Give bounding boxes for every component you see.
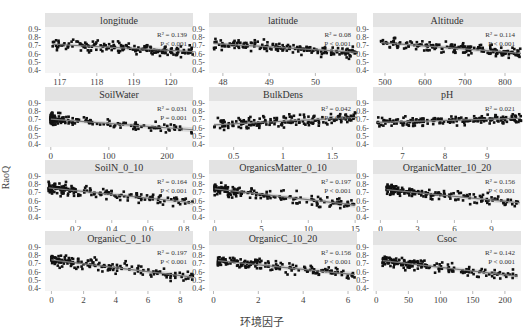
panel-title: OrganicC_0_10 bbox=[87, 233, 151, 244]
x-tick-label: 0 bbox=[374, 295, 379, 305]
y-tick-label: 0.7- bbox=[28, 41, 41, 50]
y-tick-label: 0.5- bbox=[28, 205, 41, 214]
y-tick-label: 0.4- bbox=[28, 66, 41, 75]
y-tick-label: 0.6- bbox=[28, 50, 41, 59]
y-tick-label: 0.4- bbox=[356, 284, 369, 293]
y-axis-label-text: RaoQ bbox=[0, 166, 11, 189]
p-value-label: P < 0.001 bbox=[160, 187, 187, 195]
y-tick-label: 0.5- bbox=[28, 58, 41, 67]
y-axis-label: RaoQ bbox=[2, 160, 22, 200]
p-value-label: P < 0.001 bbox=[324, 258, 351, 266]
y-tick-label: 0.9- bbox=[192, 99, 205, 108]
p-value-label: P < 0.001 bbox=[488, 187, 515, 195]
y-tick-label: 0.5- bbox=[28, 132, 41, 141]
panel-title: BulkDens bbox=[263, 89, 303, 100]
y-tick-label: 0.6- bbox=[192, 124, 205, 133]
x-tick-label: 1.5 bbox=[327, 151, 339, 161]
x-tick-label: 0 bbox=[49, 151, 54, 161]
x-tick-label: 117 bbox=[53, 77, 67, 87]
x-tick-label: 2 bbox=[256, 295, 261, 305]
y-tick-label: 0.4- bbox=[356, 66, 369, 75]
p-value-label: P < 0.001 bbox=[160, 258, 187, 266]
y-tick-label: 0.6- bbox=[28, 197, 41, 206]
y-tick-label: 0.6- bbox=[356, 124, 369, 133]
x-tick-label: 7 bbox=[400, 151, 405, 161]
x-axis-label: 环境因子 bbox=[0, 313, 524, 329]
y-tick-label: 0.6- bbox=[356, 50, 369, 59]
p-value-label: P < 0.001 bbox=[324, 40, 351, 48]
x-tick-label: 100 bbox=[434, 295, 448, 305]
y-tick-label: 0.4- bbox=[356, 140, 369, 149]
y-tick-label: 0.7- bbox=[28, 188, 41, 197]
y-tick-label: 0.6- bbox=[28, 124, 41, 133]
panel-title: SoilWater bbox=[99, 89, 139, 100]
x-tick-label: 2 bbox=[81, 295, 86, 305]
y-tick-label: 0.7- bbox=[356, 115, 369, 124]
y-tick-label: 0.5- bbox=[192, 132, 205, 141]
panel-title: OrganicC_10_20 bbox=[249, 233, 318, 244]
panel-title: OrganicsMatter_0_10 bbox=[239, 162, 327, 173]
x-tick-label: 119 bbox=[127, 77, 141, 87]
panel-title: SoilN_0_10 bbox=[95, 162, 143, 173]
y-tick-label: 0.4- bbox=[192, 66, 205, 75]
x-tick-label: 200 bbox=[160, 151, 174, 161]
y-tick-label: 0.5- bbox=[192, 58, 205, 67]
y-tick-label: 0.7- bbox=[192, 188, 205, 197]
x-tick-label: 50 bbox=[404, 295, 414, 305]
x-tick-label: 150 bbox=[466, 295, 480, 305]
panel-longitude: longitude0.4-0.5-0.6-0.7-0.8-0.9-1171181… bbox=[28, 13, 194, 87]
panel-ph: pH0.4-0.5-0.6-0.7-0.8-0.9-789R² = 0.021 bbox=[356, 87, 522, 161]
y-tick-label: 0.8- bbox=[192, 251, 205, 260]
y-tick-label: 0.8- bbox=[28, 33, 41, 42]
y-tick-label: 0.9- bbox=[192, 25, 205, 34]
y-tick-label: 0.9- bbox=[356, 25, 369, 34]
y-tick-label: 0.6- bbox=[192, 197, 205, 206]
x-tick-label: 8 bbox=[443, 151, 448, 161]
y-tick-label: 0.7- bbox=[192, 41, 205, 50]
y-tick-label: 0.6- bbox=[192, 50, 205, 59]
x-tick-label: 500 bbox=[378, 77, 392, 87]
r-squared-label: R² = 0.197 bbox=[157, 249, 187, 257]
r-squared-label: R² = 0.156 bbox=[485, 178, 515, 186]
x-tick-label: 0 bbox=[211, 295, 216, 305]
r-squared-label: R² = 0.021 bbox=[485, 105, 515, 113]
y-tick-label: 0.4- bbox=[28, 140, 41, 149]
y-tick-label: 0.5- bbox=[356, 58, 369, 67]
panel-title: longitude bbox=[100, 15, 138, 26]
y-tick-label: 0.5- bbox=[192, 205, 205, 214]
y-tick-label: 0.5- bbox=[28, 276, 41, 285]
x-tick-label: 118 bbox=[90, 77, 104, 87]
y-tick-label: 0.8- bbox=[28, 251, 41, 260]
y-tick-label: 0.6- bbox=[356, 268, 369, 277]
r-squared-label: R² = 0.042 bbox=[321, 105, 351, 113]
y-tick-label: 0.4- bbox=[28, 284, 41, 293]
x-tick-label: 600 bbox=[418, 77, 432, 87]
y-tick-label: 0.4- bbox=[28, 213, 41, 222]
panel-altitude: Altitude0.4-0.5-0.6-0.7-0.8-0.9-50060070… bbox=[356, 13, 521, 87]
r-squared-label: R² = 0.197 bbox=[321, 178, 351, 186]
y-tick-label: 0.9- bbox=[28, 172, 41, 181]
x-tick-label: 6 bbox=[346, 295, 351, 305]
x-tick-label: 50 bbox=[311, 77, 321, 87]
r-squared-label: R² = 0.08 bbox=[325, 31, 352, 39]
panel-organicc-10-20: OrganicC_10_200.4-0.5-0.6-0.7-0.8-0.9-02… bbox=[192, 231, 357, 305]
y-tick-label: 0.8- bbox=[356, 33, 369, 42]
x-tick-label: 100 bbox=[102, 151, 116, 161]
p-value-label: P < 0.001 bbox=[488, 40, 515, 48]
y-tick-label: 0.4- bbox=[192, 284, 205, 293]
y-tick-label: 0.7- bbox=[28, 259, 41, 268]
y-tick-label: 0.4- bbox=[192, 140, 205, 149]
p-value-label: P < 0.001 bbox=[160, 40, 187, 48]
x-tick-label: 120 bbox=[164, 77, 178, 87]
y-tick-label: 0.5- bbox=[192, 276, 205, 285]
y-tick-label: 0.7- bbox=[192, 115, 205, 124]
y-tick-label: 0.9- bbox=[356, 243, 369, 252]
y-tick-label: 0.4- bbox=[192, 213, 205, 222]
y-tick-label: 0.6- bbox=[28, 268, 41, 277]
x-tick-label: 700 bbox=[458, 77, 472, 87]
x-tick-label: 9 bbox=[485, 151, 490, 161]
r-squared-label: R² = 0.142 bbox=[485, 249, 515, 257]
p-value-label: P = 0.001 bbox=[160, 114, 187, 122]
faceted-scatter-figure: longitude0.4-0.5-0.6-0.7-0.8-0.9-1171181… bbox=[0, 0, 524, 331]
y-tick-label: 0.8- bbox=[192, 180, 205, 189]
